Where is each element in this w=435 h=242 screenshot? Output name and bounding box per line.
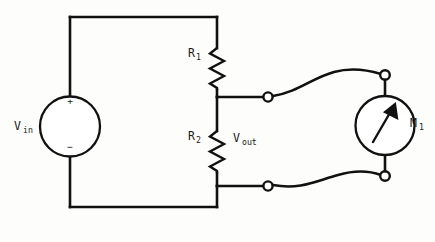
voltage-source-label: V in [14, 119, 33, 135]
m1-label-main: M [410, 116, 417, 130]
voltage-source: + − [40, 95, 100, 157]
curve-lead-top [273, 69, 381, 96]
resistor-r2 [210, 131, 224, 173]
vin-label-main: V [14, 119, 21, 133]
curve-lead-bottom [273, 172, 381, 187]
output-terminals [263, 92, 272, 190]
circuit-canvas: + − V in R 1 R 2 [0, 0, 435, 242]
meter [356, 96, 415, 155]
resistor-r1 [210, 48, 224, 90]
vout-label-main: V [233, 131, 240, 145]
r2-label-sub: 2 [196, 135, 201, 145]
resistor-r1-zigzag [210, 48, 224, 90]
terminal-out-top [263, 92, 272, 101]
terminal-meter-bottom [380, 171, 390, 181]
meter-circle [356, 96, 415, 155]
r1-label-sub: 1 [196, 52, 201, 62]
vin-label-sub: in [23, 125, 33, 135]
vout-label-sub: out [242, 137, 257, 147]
resistor-r2-label: R 2 [188, 129, 201, 145]
m1-label-sub: 1 [419, 122, 424, 132]
r1-label-main: R [188, 46, 195, 60]
meter-label: M 1 [410, 116, 424, 132]
resistor-r1-label: R 1 [188, 46, 201, 62]
vout-label: V out [233, 131, 257, 147]
r2-label-main: R [188, 129, 195, 143]
source-positive-sign: + [67, 95, 73, 106]
terminal-out-bottom [263, 181, 272, 190]
resistor-r2-zigzag [210, 131, 224, 173]
circuit-diagram: + − V in R 1 R 2 [0, 0, 435, 242]
source-negative-sign: − [67, 141, 73, 152]
terminal-meter-top [380, 70, 390, 80]
